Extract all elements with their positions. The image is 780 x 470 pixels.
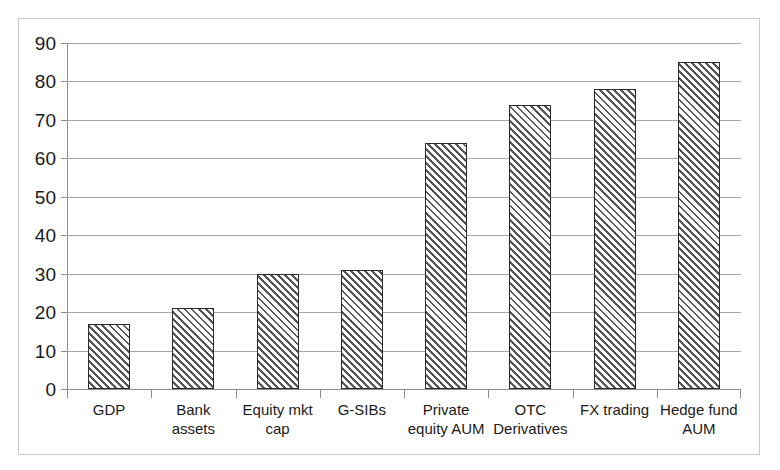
bar[interactable] <box>88 324 130 389</box>
x-axis-category-label: Equity mkt cap <box>236 400 320 452</box>
x-axis-category-label: FX trading <box>573 400 657 452</box>
y-axis-tick-label: 20 <box>35 303 56 322</box>
x-tick-mark <box>573 389 574 398</box>
bar-slot <box>573 43 657 389</box>
y-axis-tick-label: 80 <box>35 72 56 91</box>
x-tick-mark <box>320 389 321 398</box>
x-axis-labels: GDPBank assetsEquity mkt capG-SIBsPrivat… <box>67 400 741 452</box>
x-axis-category-label: Hedge fund AUM <box>657 400 741 452</box>
bar[interactable] <box>257 274 299 389</box>
y-axis-tick-label: 0 <box>45 380 56 399</box>
x-axis-category-label: Bank assets <box>151 400 235 452</box>
x-tick-mark <box>488 389 489 398</box>
x-axis-category-label: GDP <box>67 400 151 452</box>
y-axis-tick-label: 40 <box>35 226 56 245</box>
bar-slot <box>236 43 320 389</box>
y-axis-tick-label: 90 <box>35 34 56 53</box>
y-axis-tick-label: 30 <box>35 264 56 283</box>
y-axis-tick-label: 50 <box>35 187 56 206</box>
bar[interactable] <box>425 143 467 389</box>
y-axis-tick-label: 60 <box>35 149 56 168</box>
bar-series <box>67 43 741 389</box>
bar[interactable] <box>678 62 720 389</box>
x-axis-category-label: OTC Derivatives <box>488 400 572 452</box>
bar-slot <box>404 43 488 389</box>
bar-slot <box>320 43 404 389</box>
x-axis-ticks <box>67 389 741 398</box>
bar-slot <box>151 43 235 389</box>
x-tick-mark <box>657 389 658 398</box>
y-axis-tick-label: 70 <box>35 110 56 129</box>
bar-slot <box>67 43 151 389</box>
bar-slot <box>488 43 572 389</box>
bar[interactable] <box>509 105 551 389</box>
bar[interactable] <box>594 89 636 389</box>
chart-frame: 9080706050403020100 GDPBank assetsEquity… <box>18 18 760 455</box>
x-tick-mark <box>151 389 152 398</box>
x-tick-mark <box>404 389 405 398</box>
y-axis-tick-label: 10 <box>35 341 56 360</box>
plot-area: 9080706050403020100 <box>67 43 741 389</box>
x-tick-mark <box>67 389 68 398</box>
x-axis-category-label: Private equity AUM <box>404 400 488 452</box>
x-tick-mark <box>236 389 237 398</box>
x-axis-category-label: G-SIBs <box>320 400 404 452</box>
bar[interactable] <box>172 308 214 389</box>
bar-slot <box>657 43 741 389</box>
bar[interactable] <box>341 270 383 389</box>
x-tick-mark <box>740 389 741 398</box>
